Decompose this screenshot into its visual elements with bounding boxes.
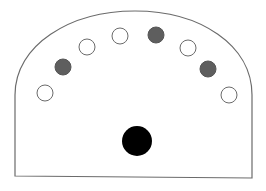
- indicator-circle-7-filled: [200, 61, 216, 77]
- indicator-circle-1-open: [37, 85, 53, 101]
- indicator-circle-8-open: [221, 87, 237, 103]
- indicator-circle-3-open: [79, 39, 95, 55]
- indicator-circle-2-filled: [55, 59, 71, 75]
- center-filled-circle: [122, 126, 152, 156]
- indicator-circle-5-filled: [148, 27, 164, 43]
- arch-diagram: [0, 0, 266, 191]
- indicator-circle-4-open: [112, 28, 128, 44]
- indicator-circle-6-open: [180, 40, 196, 56]
